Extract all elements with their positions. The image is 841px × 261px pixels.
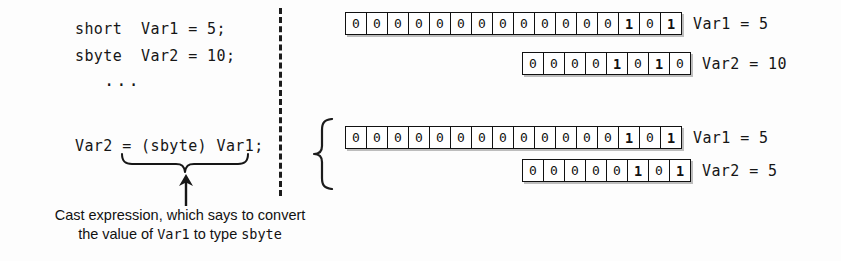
bit-cell: 0 (388, 127, 409, 148)
bit-cell: 0 (640, 127, 661, 148)
bit-cell: 0 (586, 53, 607, 74)
bit-cell: 0 (544, 160, 565, 181)
bit-cell: 0 (556, 127, 577, 148)
dashed-divider-icon (279, 8, 282, 196)
caption-var1-token: Var1 (157, 226, 190, 242)
bit-cell: 0 (493, 13, 514, 34)
bit-cell: 0 (514, 127, 535, 148)
bit-cell: 0 (577, 127, 598, 148)
bit-cell: 0 (670, 53, 690, 74)
bit-cell: 0 (493, 127, 514, 148)
bit-row: 0000000000000101 Var1 = 5 (345, 126, 768, 149)
bit-boxes-var2-before: 00001010 (522, 52, 691, 75)
bit-row-label: Var2 = 10 (702, 55, 787, 73)
bit-cell: 0 (586, 160, 607, 181)
bit-boxes-var1-after: 0000000000000101 (345, 126, 682, 149)
bit-cell: 1 (661, 127, 681, 148)
bit-cell: 1 (607, 53, 628, 74)
bit-row-label: Var1 = 5 (693, 129, 768, 147)
bit-cell: 0 (409, 127, 430, 148)
code-line-declaration-var2: sbyte Var2 = 10; (75, 47, 235, 65)
code-line-declaration-var1: short Var1 = 5; (75, 20, 226, 38)
bit-cell: 0 (607, 160, 628, 181)
bit-cell: 0 (556, 13, 577, 34)
caption-line-2: the value of Var1 to type sbyte (0, 225, 360, 244)
bit-cell: 0 (535, 127, 556, 148)
bit-boxes-var1-before: 0000000000000101 (345, 12, 682, 35)
caption-line-2-prefix: the value of (78, 226, 157, 242)
cast-expression-diagram: short Var1 = 5; sbyte Var2 = 10; ... Var… (0, 0, 841, 261)
underbrace-icon (120, 153, 250, 173)
bit-cell: 1 (628, 160, 649, 181)
bit-cell: 0 (649, 160, 670, 181)
bit-boxes-var2-after: 00000101 (522, 159, 691, 182)
caption-line-2-middle: to type (190, 226, 242, 242)
bit-cell: 1 (670, 160, 690, 181)
bit-row: 00000101 Var2 = 5 (522, 159, 777, 182)
bit-cell: 0 (451, 127, 472, 148)
bit-cell: 0 (535, 13, 556, 34)
caption-text: Cast expression, which says to convert t… (0, 206, 360, 244)
bit-cell: 0 (367, 127, 388, 148)
bit-cell: 0 (388, 13, 409, 34)
bit-cell: 0 (451, 13, 472, 34)
bit-cell: 0 (472, 127, 493, 148)
caption-line-1-text: Cast expression, which says to convert (55, 207, 306, 223)
bit-row-label: Var2 = 5 (702, 162, 777, 180)
code-line-ellipsis: ... (104, 70, 141, 90)
bit-cell: 0 (577, 13, 598, 34)
arrow-up-icon (170, 172, 202, 206)
bit-cell: 0 (598, 13, 619, 34)
bit-cell: 1 (661, 13, 681, 34)
curly-brace-icon (310, 118, 336, 190)
bit-cell: 0 (514, 13, 535, 34)
bit-cell: 1 (619, 127, 640, 148)
bit-cell: 0 (472, 13, 493, 34)
caption-line-1: Cast expression, which says to convert (0, 206, 360, 225)
bit-cell: 0 (346, 13, 367, 34)
bit-cell: 0 (367, 13, 388, 34)
bit-cell: 0 (430, 13, 451, 34)
bit-cell: 0 (409, 13, 430, 34)
bit-cell: 0 (523, 53, 544, 74)
caption-sbyte-token: sbyte (241, 226, 282, 242)
bit-cell: 0 (628, 53, 649, 74)
bit-cell: 0 (523, 160, 544, 181)
bit-cell: 1 (649, 53, 670, 74)
bit-row: 00001010 Var2 = 10 (522, 52, 787, 75)
bit-row: 0000000000000101 Var1 = 5 (345, 12, 768, 35)
bit-cell: 0 (346, 127, 367, 148)
bit-cell: 0 (598, 127, 619, 148)
bit-cell: 0 (430, 127, 451, 148)
bit-cell: 1 (619, 13, 640, 34)
bit-cell: 0 (565, 53, 586, 74)
bit-cell: 0 (640, 13, 661, 34)
bit-cell: 0 (565, 160, 586, 181)
bit-cell: 0 (544, 53, 565, 74)
bit-row-label: Var1 = 5 (693, 15, 768, 33)
